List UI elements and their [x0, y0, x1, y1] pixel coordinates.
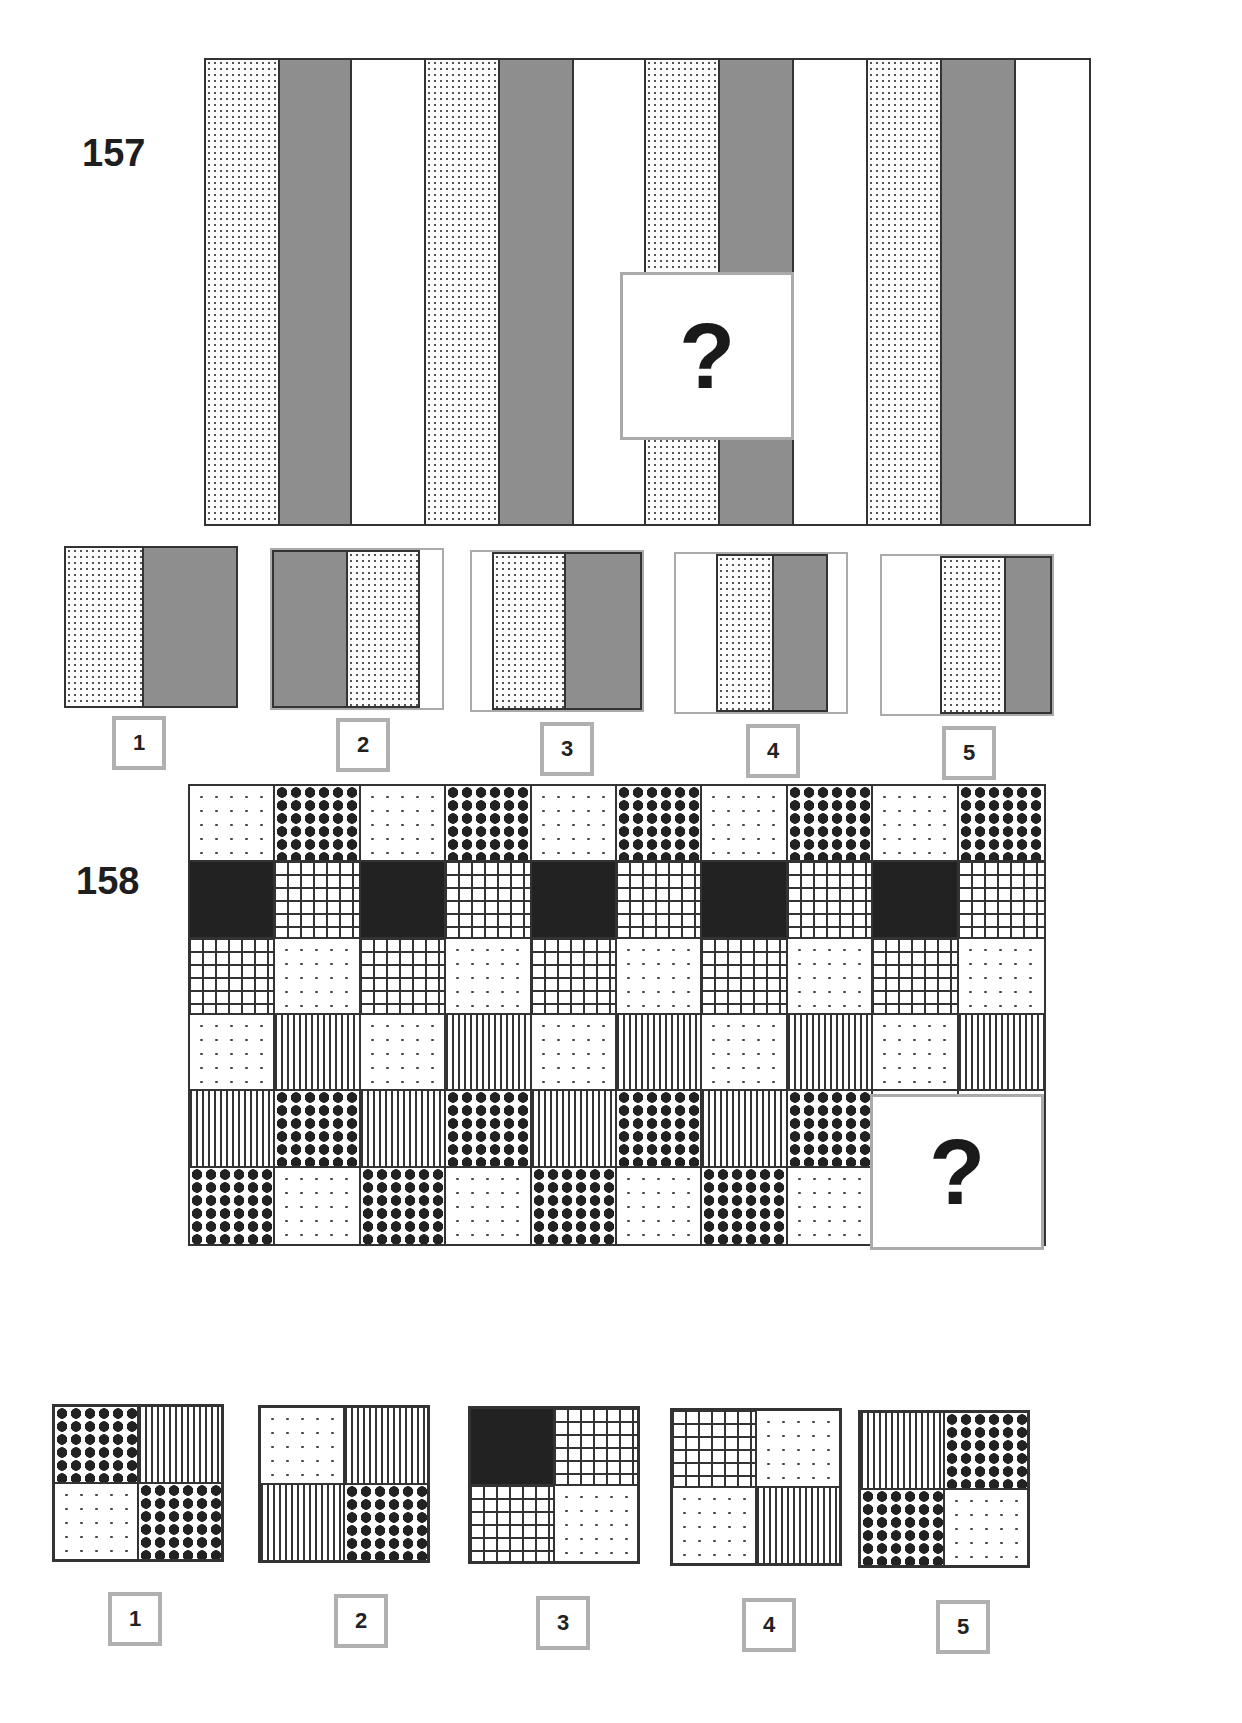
- option-label-157-5[interactable]: 5: [942, 726, 996, 780]
- option-quadrant-sparse: [756, 1410, 840, 1487]
- option-quadrant-vlines: [138, 1406, 222, 1483]
- grid-cell-vlines: [702, 1091, 787, 1167]
- grid-cell-sparse: [788, 939, 873, 1015]
- option-cell-gray: [774, 554, 828, 712]
- grid-cell-sparse: [446, 939, 531, 1015]
- grid-cell-diamond: [788, 1091, 873, 1167]
- option-quadrant-diamond: [944, 1412, 1028, 1489]
- grid-cell-sparse: [788, 1168, 873, 1244]
- stripe-white: [794, 60, 868, 524]
- option-quadrant-sparse: [260, 1407, 344, 1484]
- option-cell-gray: [1006, 556, 1052, 714]
- grid-cell-diamond: [617, 786, 702, 862]
- grid-cell-black: [190, 862, 275, 938]
- option-158-2[interactable]: [258, 1405, 430, 1563]
- option-quadrant-diamond: [138, 1483, 222, 1560]
- stripe-dotted: [206, 60, 280, 524]
- option-158-5[interactable]: [858, 1410, 1030, 1568]
- option-label-158-5[interactable]: 5: [936, 1600, 990, 1654]
- grid-cell-diamond: [702, 1168, 787, 1244]
- grid-cell-grid: [702, 939, 787, 1015]
- option-157-3[interactable]: [470, 550, 644, 712]
- grid-cell-sparse: [190, 786, 275, 862]
- option-label-157-4[interactable]: 4: [746, 724, 800, 778]
- option-cell-gray: [144, 548, 236, 706]
- option-quadrant-diamond: [344, 1484, 428, 1561]
- option-cell-white: [882, 556, 940, 714]
- grid-cell-vlines: [190, 1091, 275, 1167]
- option-quadrant-sparse: [554, 1485, 638, 1562]
- option-158-3[interactable]: [468, 1406, 640, 1564]
- option-quadrant-vlines: [260, 1484, 344, 1561]
- grid-cell-grid: [617, 862, 702, 938]
- option-quadrant-diamond: [54, 1406, 138, 1483]
- option-label-157-3[interactable]: 3: [540, 722, 594, 776]
- grid-cell-sparse: [361, 786, 446, 862]
- grid-cell-vlines: [959, 1015, 1044, 1091]
- grid-cell-sparse: [873, 1015, 958, 1091]
- option-cell-gray: [566, 552, 642, 710]
- grid-cell-vlines: [361, 1091, 446, 1167]
- option-label-157-2[interactable]: 2: [336, 718, 390, 772]
- question-mark-icon: ?: [679, 310, 735, 402]
- option-157-1[interactable]: [64, 546, 238, 708]
- option-quadrant-diamond: [860, 1489, 944, 1566]
- option-label-157-1[interactable]: 1: [112, 716, 166, 770]
- option-quadrant-sparse: [672, 1487, 756, 1564]
- grid-cell-sparse: [959, 939, 1044, 1015]
- option-cell-white: [472, 552, 492, 710]
- option-quadrant-sparse: [944, 1489, 1028, 1566]
- option-quadrant-sparse: [54, 1483, 138, 1560]
- option-157-5[interactable]: [880, 554, 1054, 716]
- stripe-gray: [500, 60, 574, 524]
- grid-cell-grid: [275, 862, 360, 938]
- grid-cell-diamond: [532, 1168, 617, 1244]
- option-158-4[interactable]: [670, 1408, 842, 1566]
- option-label-158-1[interactable]: 1: [108, 1592, 162, 1646]
- grid-cell-grid: [873, 939, 958, 1015]
- grid-cell-diamond: [788, 786, 873, 862]
- grid-cell-sparse: [190, 1015, 275, 1091]
- grid-cell-sparse: [532, 1015, 617, 1091]
- grid-cell-vlines: [275, 1015, 360, 1091]
- grid-cell-vlines: [617, 1015, 702, 1091]
- grid-cell-grid: [959, 862, 1044, 938]
- grid-cell-vlines: [446, 1015, 531, 1091]
- grid-cell-grid: [361, 939, 446, 1015]
- grid-cell-sparse: [617, 1168, 702, 1244]
- option-cell-white: [828, 554, 846, 712]
- option-157-4[interactable]: [674, 552, 848, 714]
- option-quadrant-vlines: [756, 1487, 840, 1564]
- option-cell-dotted: [716, 554, 774, 712]
- puzzle-number-158: 158: [76, 860, 139, 903]
- option-label-158-2[interactable]: 2: [334, 1594, 388, 1648]
- option-157-2[interactable]: [270, 548, 444, 710]
- stripe-gray: [942, 60, 1016, 524]
- stripe-gray: [280, 60, 352, 524]
- grid-cell-grid: [532, 939, 617, 1015]
- grid-cell-diamond: [361, 1168, 446, 1244]
- option-cell-white: [676, 554, 716, 712]
- missing-piece-placeholder-157: ?: [620, 272, 794, 440]
- grid-cell-diamond: [959, 786, 1044, 862]
- stripe-dotted: [868, 60, 942, 524]
- grid-cell-diamond: [190, 1168, 275, 1244]
- grid-cell-diamond: [446, 1091, 531, 1167]
- grid-cell-sparse: [361, 1015, 446, 1091]
- grid-cell-diamond: [617, 1091, 702, 1167]
- grid-cell-sparse: [873, 786, 958, 862]
- grid-cell-sparse: [702, 786, 787, 862]
- option-cell-gray: [272, 550, 348, 708]
- option-label-158-4[interactable]: 4: [742, 1598, 796, 1652]
- grid-cell-grid: [446, 862, 531, 938]
- grid-cell-vlines: [788, 1015, 873, 1091]
- option-158-1[interactable]: [52, 1404, 224, 1562]
- grid-cell-sparse: [275, 1168, 360, 1244]
- grid-cell-black: [702, 862, 787, 938]
- option-label-158-3[interactable]: 3: [536, 1596, 590, 1650]
- stripe-dotted: [426, 60, 500, 524]
- option-quadrant-grid: [672, 1410, 756, 1487]
- stripe-white: [352, 60, 426, 524]
- question-mark-icon: ?: [929, 1126, 985, 1218]
- grid-cell-diamond: [275, 786, 360, 862]
